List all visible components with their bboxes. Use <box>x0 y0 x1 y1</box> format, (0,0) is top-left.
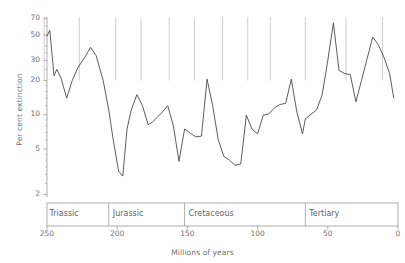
period-label-jurassic: Jurassic <box>113 209 144 219</box>
y-tick-label: 50 <box>14 31 40 39</box>
y-tick-label: 5 <box>14 145 40 153</box>
extinction-line-chart <box>0 0 405 263</box>
y-tick-label: 20 <box>14 76 40 84</box>
y-tick-label: 70 <box>14 14 40 22</box>
chart-root: Per cent extinction Millions of years 70… <box>0 0 405 263</box>
y-tick-label: 2 <box>14 190 40 198</box>
x-tick-label: 150 <box>172 230 202 238</box>
x-tick-label: 50 <box>313 230 343 238</box>
x-tick-label: 100 <box>243 230 273 238</box>
period-label-tertiary: Tertiary <box>309 209 339 219</box>
x-tick-label: 0 <box>383 230 405 238</box>
x-tick-label: 250 <box>32 230 62 238</box>
period-label-triassic: Triassic <box>50 209 79 219</box>
y-tick-label: 30 <box>14 56 40 64</box>
x-tick-label: 200 <box>102 230 132 238</box>
x-axis-title: Millions of years <box>0 248 405 257</box>
period-label-cretaceous: Cretaceous <box>189 209 234 219</box>
y-tick-label: 10 <box>14 110 40 118</box>
